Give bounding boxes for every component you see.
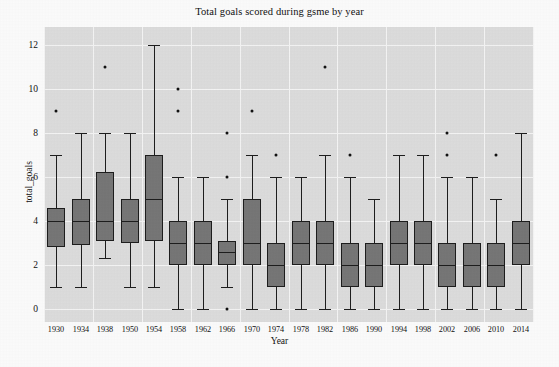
plot-area bbox=[44, 27, 533, 322]
outlier-point bbox=[251, 109, 254, 112]
median-line bbox=[438, 265, 456, 266]
box bbox=[72, 199, 90, 245]
median-line bbox=[487, 265, 505, 266]
cap-lower bbox=[295, 309, 307, 310]
whisker-lower bbox=[447, 287, 448, 309]
whisker-upper bbox=[472, 177, 473, 243]
median-line bbox=[365, 265, 383, 266]
outlier-point bbox=[446, 131, 449, 134]
cap-upper bbox=[99, 133, 111, 134]
whisker-lower bbox=[130, 243, 131, 287]
cap-upper bbox=[197, 177, 209, 178]
median-line bbox=[47, 221, 65, 222]
whisker-upper bbox=[374, 199, 375, 243]
median-line bbox=[512, 243, 530, 244]
whisker-upper bbox=[521, 133, 522, 221]
box bbox=[243, 199, 261, 265]
cap-lower bbox=[50, 287, 62, 288]
cap-lower bbox=[368, 309, 380, 310]
cap-upper bbox=[490, 199, 502, 200]
cap-lower bbox=[466, 309, 478, 310]
whisker-upper bbox=[130, 133, 131, 199]
x-gridline bbox=[93, 27, 94, 322]
x-tick-label: 2006 bbox=[464, 325, 480, 334]
x-tick-label: 1978 bbox=[293, 325, 309, 334]
cap-upper bbox=[368, 199, 380, 200]
cap-lower bbox=[124, 287, 136, 288]
cap-lower bbox=[172, 309, 184, 310]
cap-upper bbox=[75, 133, 87, 134]
y-axis-label: total_goals bbox=[24, 137, 34, 227]
outlier-point bbox=[177, 87, 180, 90]
x-tick-label: 1974 bbox=[268, 325, 284, 334]
cap-upper bbox=[50, 155, 62, 156]
cap-upper bbox=[319, 155, 331, 156]
whisker-upper bbox=[325, 155, 326, 221]
x-gridline bbox=[44, 27, 45, 322]
cap-lower bbox=[393, 309, 405, 310]
x-tick-label: 1982 bbox=[317, 325, 333, 334]
x-gridline bbox=[533, 27, 534, 322]
whisker-upper bbox=[350, 177, 351, 243]
cap-upper bbox=[124, 133, 136, 134]
y-tick-label: 12 bbox=[29, 40, 39, 50]
outlier-point bbox=[324, 65, 327, 68]
whisker-lower bbox=[276, 287, 277, 309]
outlier-point bbox=[446, 153, 449, 156]
cap-upper bbox=[246, 155, 258, 156]
box bbox=[218, 241, 236, 265]
x-gridline bbox=[484, 27, 485, 322]
median-line bbox=[169, 243, 187, 244]
outlier-point bbox=[495, 153, 498, 156]
y-tick-label: 8 bbox=[33, 128, 38, 138]
whisker-lower bbox=[203, 265, 204, 309]
whisker-lower bbox=[423, 265, 424, 309]
whisker-lower bbox=[178, 265, 179, 309]
cap-upper bbox=[172, 177, 184, 178]
whisker-upper bbox=[154, 45, 155, 155]
median-line bbox=[96, 221, 114, 222]
whisker-lower bbox=[325, 265, 326, 309]
cap-lower bbox=[221, 287, 233, 288]
median-line bbox=[292, 243, 310, 244]
outlier-point bbox=[104, 65, 107, 68]
whisker-lower bbox=[81, 245, 82, 287]
x-tick-label: 1958 bbox=[170, 325, 186, 334]
whisker-lower bbox=[56, 247, 57, 287]
x-tick-label: 1970 bbox=[244, 325, 260, 334]
median-line bbox=[121, 221, 139, 222]
whisker-lower bbox=[472, 287, 473, 309]
whisker-upper bbox=[178, 177, 179, 221]
box bbox=[145, 155, 163, 241]
whisker-upper bbox=[252, 155, 253, 199]
median-line bbox=[316, 243, 334, 244]
outlier-point bbox=[177, 109, 180, 112]
x-gridline bbox=[142, 27, 143, 322]
x-gridline bbox=[240, 27, 241, 322]
x-tick-label: 1950 bbox=[122, 325, 138, 334]
median-line bbox=[194, 243, 212, 244]
cap-lower bbox=[417, 309, 429, 310]
whisker-lower bbox=[105, 241, 106, 259]
median-line bbox=[267, 265, 285, 266]
median-line bbox=[243, 243, 261, 244]
cap-lower bbox=[99, 258, 111, 259]
y-tick-label: 6 bbox=[33, 172, 38, 182]
whisker-upper bbox=[81, 133, 82, 199]
x-gridline bbox=[337, 27, 338, 322]
x-tick-label: 1954 bbox=[146, 325, 162, 334]
whisker-upper bbox=[56, 155, 57, 208]
whisker-upper bbox=[399, 155, 400, 221]
whisker-lower bbox=[399, 265, 400, 309]
x-tick-label: 1998 bbox=[415, 325, 431, 334]
cap-upper bbox=[295, 177, 307, 178]
y-tick-label: 2 bbox=[33, 260, 38, 270]
x-tick-label: 1930 bbox=[48, 325, 64, 334]
median-line bbox=[218, 252, 236, 253]
cap-upper bbox=[515, 133, 527, 134]
median-line bbox=[414, 243, 432, 244]
x-gridline bbox=[191, 27, 192, 322]
whisker-upper bbox=[423, 155, 424, 221]
x-gridline bbox=[289, 27, 290, 322]
outlier-point bbox=[55, 109, 58, 112]
